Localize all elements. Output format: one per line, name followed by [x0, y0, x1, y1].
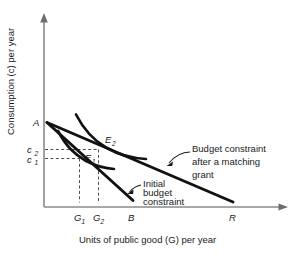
annotation-matching-grant-line3: grant [192, 169, 214, 180]
point-label-e2-sub: 2 [111, 140, 116, 147]
indifference-curves-group [58, 115, 146, 170]
point-label-e1-base: E [85, 152, 92, 163]
x-axis-title: Units of public good (G) per year [79, 234, 216, 245]
economics-figure: Consumption (c) per year Units of public… [0, 0, 298, 256]
x-tick-B: B [128, 212, 135, 223]
y-axis-title: Consumption (c) per year [5, 28, 16, 135]
y-tick-c1-base: c [27, 154, 32, 165]
matching-grant-leader-line [169, 152, 190, 163]
x-tick-labels: G 1 G 2 B R [74, 212, 236, 225]
x-tick-G2-base: G [93, 212, 100, 223]
initial-constraint-leader-arrow-icon [127, 190, 134, 194]
x-tick-G2-sub: 2 [100, 218, 105, 225]
y-tick-c1-sub: 1 [35, 159, 39, 166]
annotation-matching-grant-line2: after a matching [192, 156, 260, 167]
x-tick-G1-sub: 1 [82, 218, 86, 225]
annotation-matching-grant: Budget constraint after a matching grant [192, 143, 266, 180]
annotation-initial-constraint-line3: constraint [143, 196, 185, 207]
y-axis-arrow-icon [40, 13, 48, 23]
x-tick-G1-base: G [74, 212, 81, 223]
x-axis-arrow-icon [279, 203, 289, 210]
initial-constraint-leader-line [130, 185, 142, 192]
annotation-matching-grant-line1: Budget constraint [192, 143, 266, 154]
point-label-a: A [32, 117, 39, 128]
x-tick-R: R [229, 212, 236, 223]
y-tick-c2-sub: 2 [34, 150, 39, 157]
y-tick-labels: c 2 c 1 [27, 144, 39, 166]
budget-constraint-chart: Consumption (c) per year Units of public… [0, 0, 298, 256]
point-label-e1-sub: 1 [92, 158, 96, 165]
point-label-e2-base: E [105, 134, 112, 145]
annotation-initial-constraint: Initial budget constraint [143, 178, 185, 207]
